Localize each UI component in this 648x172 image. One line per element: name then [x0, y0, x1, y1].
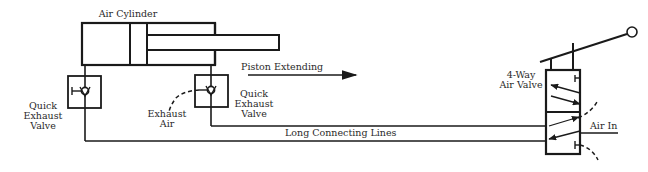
right-qev-label-3: Valve	[240, 108, 267, 119]
piston-rod	[147, 35, 279, 50]
left-qev-label-3: Valve	[29, 120, 56, 131]
exhaust-air-label-2: Air	[159, 118, 175, 129]
piston-extending-label: Piston Extending	[241, 61, 323, 72]
flow-arrow-4-icon	[549, 131, 580, 139]
connecting-lines-label: Long Connecting Lines	[285, 127, 397, 138]
flow-arrow-3-icon	[549, 117, 579, 126]
flow-arrow-1-icon	[551, 85, 580, 93]
lever-handle	[540, 34, 627, 62]
air-in-label: Air In	[589, 120, 617, 131]
four-way-air-valve: 4-Way Air Valve Air In	[498, 27, 637, 160]
left-quick-exhaust-valve: Quick Exhaust Valve	[24, 65, 101, 141]
air-cylinder-label: Air Cylinder	[98, 8, 158, 19]
flow-arrow-2-icon	[551, 96, 580, 104]
piston-extending-indicator: Piston Extending	[241, 61, 356, 75]
lever-knob-icon	[627, 27, 637, 37]
lower-exhaust-dashed-icon	[580, 145, 598, 160]
four-way-valve-label-2: Air Valve	[498, 79, 543, 90]
air-cylinder: Air Cylinder	[82, 8, 279, 65]
connecting-lines: Long Connecting Lines	[85, 126, 546, 141]
pneumatic-circuit-diagram: Air Cylinder Quick Exhaust Valve Quick E…	[0, 0, 648, 172]
